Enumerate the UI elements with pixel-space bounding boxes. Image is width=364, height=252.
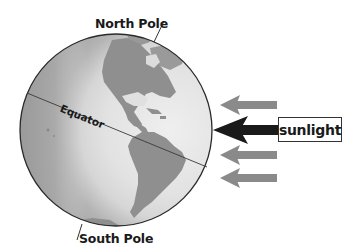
- sun-ray-arrow-2: [220, 145, 277, 165]
- globe: [20, 34, 212, 230]
- south-pole-label: South Pole: [79, 231, 153, 246]
- sunlight-label-box: sunlight: [278, 117, 342, 142]
- sun-ray-arrow-main: [213, 116, 278, 144]
- sun-ray-arrow-3: [220, 168, 277, 188]
- sunlight-label: sunlight: [279, 122, 341, 138]
- earth-sunlight-diagram: North Pole South Pole Equator sunlight: [0, 0, 364, 252]
- sun-ray-arrow-1: [220, 95, 277, 115]
- north-pole-label: North Pole: [95, 16, 168, 31]
